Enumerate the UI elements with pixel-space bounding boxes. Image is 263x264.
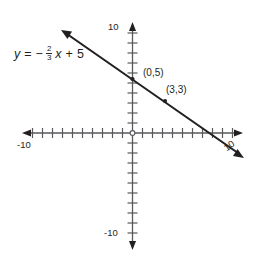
- equation-fraction: 2 3: [46, 45, 52, 63]
- y-axis: [128, 22, 138, 250]
- coordinate-plane: [0, 0, 263, 264]
- fraction-denominator: 3: [46, 53, 52, 62]
- equation-minus-sign: −: [36, 48, 43, 61]
- origin-marker: [130, 131, 135, 136]
- x-axis-min-label: -10: [17, 140, 31, 150]
- equation-equals: =: [23, 48, 32, 61]
- function-line: [61, 30, 244, 158]
- y-axis-bottom-arrow-icon: [129, 241, 136, 250]
- function-line-start-arrow-icon: [61, 30, 72, 39]
- point-marker-0-5: [130, 77, 134, 81]
- equation-plus-sign: +: [65, 48, 74, 61]
- point-label-3-3: (3,3): [166, 85, 187, 95]
- y-axis-top-arrow-icon: [129, 22, 136, 31]
- y-axis-min-label: -10: [104, 228, 118, 238]
- fraction-numerator: 2: [46, 45, 52, 53]
- equation-lhs: y: [14, 48, 20, 61]
- graph-figure: 10 -10 -10 10 (0,5) (3,3) y = − 2 3 x + …: [0, 0, 263, 264]
- x-axis-left-arrow-icon: [22, 130, 31, 137]
- equation-constant: 5: [77, 48, 84, 61]
- equation-annotation: y = − 2 3 x + 5: [14, 45, 84, 63]
- equation-variable: x: [55, 48, 61, 61]
- y-axis-max-label: 10: [108, 22, 119, 32]
- point-label-0-5: (0,5): [143, 68, 164, 78]
- x-axis-right-arrow-icon: [234, 130, 243, 137]
- point-marker-3-3: [163, 99, 167, 103]
